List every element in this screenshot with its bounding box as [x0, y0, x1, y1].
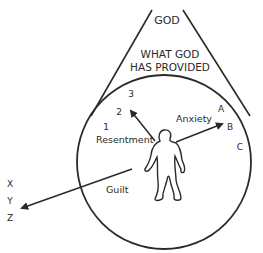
resentment-label: Resentment [96, 134, 154, 145]
provision-label-line2: HAS PROVIDED [130, 61, 210, 73]
anxiety-label: Anxiety [176, 113, 212, 124]
life-circle [77, 75, 251, 249]
number-1: 1 [103, 122, 109, 132]
god-provision-diagram: GOD WHAT GOD HAS PROVIDED 3 2 1 Resentme… [0, 0, 263, 253]
number-3: 3 [128, 89, 134, 99]
guilt-label: Guilt [106, 184, 129, 195]
provision-label-line1: WHAT GOD [141, 48, 200, 60]
letter-a: A [218, 104, 225, 114]
letter-y: Y [6, 196, 13, 206]
letter-c: C [237, 142, 243, 152]
letter-x: X [7, 179, 13, 189]
letter-z: Z [7, 213, 13, 223]
anxiety-arrow [176, 124, 222, 142]
letter-b: B [227, 122, 233, 132]
number-2: 2 [116, 107, 122, 117]
god-label: GOD [154, 14, 180, 27]
